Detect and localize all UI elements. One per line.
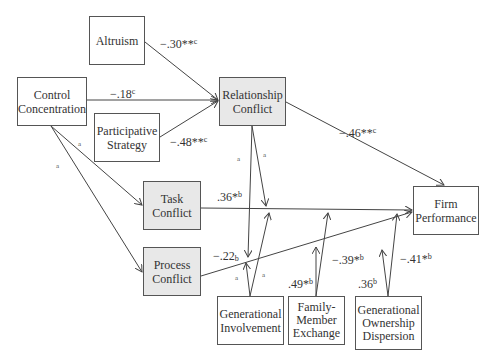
node-family-member-exchange: Family- Member Exchange — [288, 296, 345, 345]
coef-altruism: −.30**c — [160, 36, 197, 50]
node-generational-ownership-dispersion: Generational Ownership Dispersion — [355, 296, 422, 350]
coef-fme-2: −.39*b — [332, 252, 364, 266]
coef-god-2: −.41*b — [400, 251, 432, 265]
edge-geninv-up-b — [250, 213, 269, 296]
coef-task-performance: .36*b — [217, 189, 242, 203]
coef-participative: −.48**c — [170, 134, 207, 148]
coef-fme-1: .49*b — [288, 276, 313, 290]
note-a-relationship-left: a — [237, 156, 240, 163]
node-participative-strategy: Participative Strategy — [94, 113, 160, 162]
edge-god-up-b — [388, 214, 397, 296]
edge-geninv-up-a — [246, 263, 250, 296]
node-task-conflict: Task Conflict — [143, 181, 201, 230]
edge-god-up-a — [382, 250, 388, 296]
coef-process-performance: −.22b — [213, 250, 239, 265]
edge-process-firm — [201, 212, 412, 276]
note-a-relationship-right: a — [263, 152, 266, 159]
edge-relationship-down-a — [248, 126, 252, 257]
edge-relationship-down-b — [252, 126, 266, 206]
coef-control: −.18c — [110, 86, 135, 100]
coef-relationship-performance: −.46**c — [339, 125, 376, 139]
note-a-control-task: a — [78, 141, 81, 148]
note-a-control-process: a — [56, 163, 59, 170]
edge-relationship-firm — [286, 102, 444, 185]
node-altruism: Altruism — [89, 16, 145, 65]
node-process-conflict: Process Conflict — [143, 247, 201, 296]
path-diagram: Altruism Control Concentration Participa… — [0, 0, 492, 358]
note-a-geninv-left: a — [235, 275, 238, 282]
node-firm-performance: Firm Performance — [413, 186, 479, 235]
coef-god-1: .36b — [358, 276, 377, 290]
note-a-geninv-right: a — [262, 272, 265, 279]
node-generational-involvement: Generational Involvement — [217, 296, 284, 345]
edge-fme-up-b — [316, 213, 328, 296]
edge-participative-relationship — [160, 101, 218, 137]
edge-task-firm — [201, 208, 412, 210]
node-control-concentration: Control Concentration — [17, 77, 87, 126]
node-relationship-conflict: Relationship Conflict — [219, 77, 286, 126]
